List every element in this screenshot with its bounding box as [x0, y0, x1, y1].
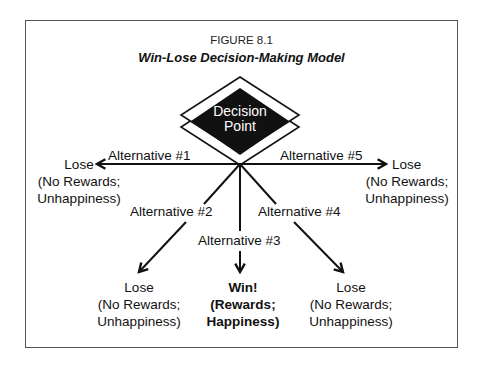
alt4-line-upper	[240, 164, 276, 204]
outcome-result: Lose	[352, 156, 462, 173]
outcome-detail: Unhappiness)	[84, 313, 194, 330]
alt2-arrow	[139, 222, 186, 272]
alt5-label: Alternative #5	[280, 148, 363, 164]
alt2-label: Alternative #2	[130, 204, 213, 220]
outcome-alt4: Lose (No Rewards; Unhappiness)	[296, 279, 406, 330]
decision-point-label: Decision Point	[200, 104, 280, 134]
outcome-result: Win!	[188, 279, 298, 296]
outcome-result: Lose	[24, 156, 134, 173]
outcome-alt1: Lose (No Rewards; Unhappiness)	[24, 156, 134, 207]
outcome-detail: (No Rewards;	[24, 173, 134, 190]
outcome-result: Lose	[296, 279, 406, 296]
alt3-label: Alternative #3	[198, 233, 281, 249]
outcome-alt5: Lose (No Rewards; Unhappiness)	[352, 156, 462, 207]
outcome-detail: (Rewards;	[188, 296, 298, 313]
alt4-arrow	[294, 222, 343, 272]
outcome-detail: (No Rewards;	[84, 296, 194, 313]
decision-line1: Decision	[200, 104, 280, 119]
outcome-detail: Unhappiness)	[352, 190, 462, 207]
outcome-alt2: Lose (No Rewards; Unhappiness)	[84, 279, 194, 330]
outcome-alt3: Win! (Rewards; Happiness)	[188, 279, 298, 330]
outcome-result: Lose	[84, 279, 194, 296]
outcome-detail: (No Rewards;	[296, 296, 406, 313]
decision-line2: Point	[200, 119, 280, 134]
alt2-line-upper	[204, 164, 240, 204]
alt4-label: Alternative #4	[258, 204, 341, 220]
outcome-detail: Unhappiness)	[296, 313, 406, 330]
outcome-detail: Happiness)	[188, 313, 298, 330]
outcome-detail: Unhappiness)	[24, 190, 134, 207]
outcome-detail: (No Rewards;	[352, 173, 462, 190]
